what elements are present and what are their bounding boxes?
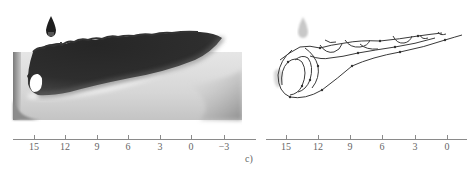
right-tick-label: 3 bbox=[413, 141, 418, 152]
right-tick-label: 15 bbox=[281, 141, 291, 152]
right-tick-6 bbox=[382, 135, 383, 139]
streamline-plot bbox=[250, 0, 473, 130]
right-axis-line bbox=[266, 139, 467, 140]
right-panel-streamlines bbox=[250, 0, 473, 130]
left-tick-6 bbox=[128, 135, 129, 139]
left-tick-15 bbox=[34, 135, 35, 139]
left-axis-line bbox=[13, 139, 256, 140]
left-tick-label: −3 bbox=[219, 141, 230, 152]
left-tick-label: 9 bbox=[95, 141, 100, 152]
figure-label: c) bbox=[245, 153, 253, 164]
right-tick-label: 6 bbox=[380, 141, 385, 152]
right-tick-label: 9 bbox=[348, 141, 353, 152]
right-tick-label: 12 bbox=[313, 141, 323, 152]
streamlines-group bbox=[278, 32, 462, 98]
left-tick-label: 15 bbox=[29, 141, 39, 152]
left-tick-label: 12 bbox=[60, 141, 70, 152]
left-tick-0 bbox=[191, 135, 192, 139]
left-tick-label: 0 bbox=[189, 141, 194, 152]
right-tick-3 bbox=[415, 135, 416, 139]
left-tick-12 bbox=[65, 135, 66, 139]
left-tick-label: 6 bbox=[126, 141, 131, 152]
left-tick-minus3 bbox=[224, 135, 225, 139]
right-tick-label: 0 bbox=[445, 141, 450, 152]
right-tick-9 bbox=[350, 135, 351, 139]
right-tick-0 bbox=[447, 135, 448, 139]
right-tick-12 bbox=[318, 135, 319, 139]
grayscale-field-image bbox=[0, 0, 242, 130]
droplet-shape bbox=[298, 17, 308, 38]
left-tick-9 bbox=[97, 135, 98, 139]
right-x-axis: 15 12 9 6 3 0 bbox=[250, 130, 473, 160]
left-tick-3 bbox=[160, 135, 161, 139]
left-tick-label: 3 bbox=[158, 141, 163, 152]
left-panel-grayscale-field bbox=[0, 0, 242, 130]
left-x-axis: 15 12 9 6 3 0 −3 bbox=[0, 130, 260, 160]
right-tick-15 bbox=[286, 135, 287, 139]
